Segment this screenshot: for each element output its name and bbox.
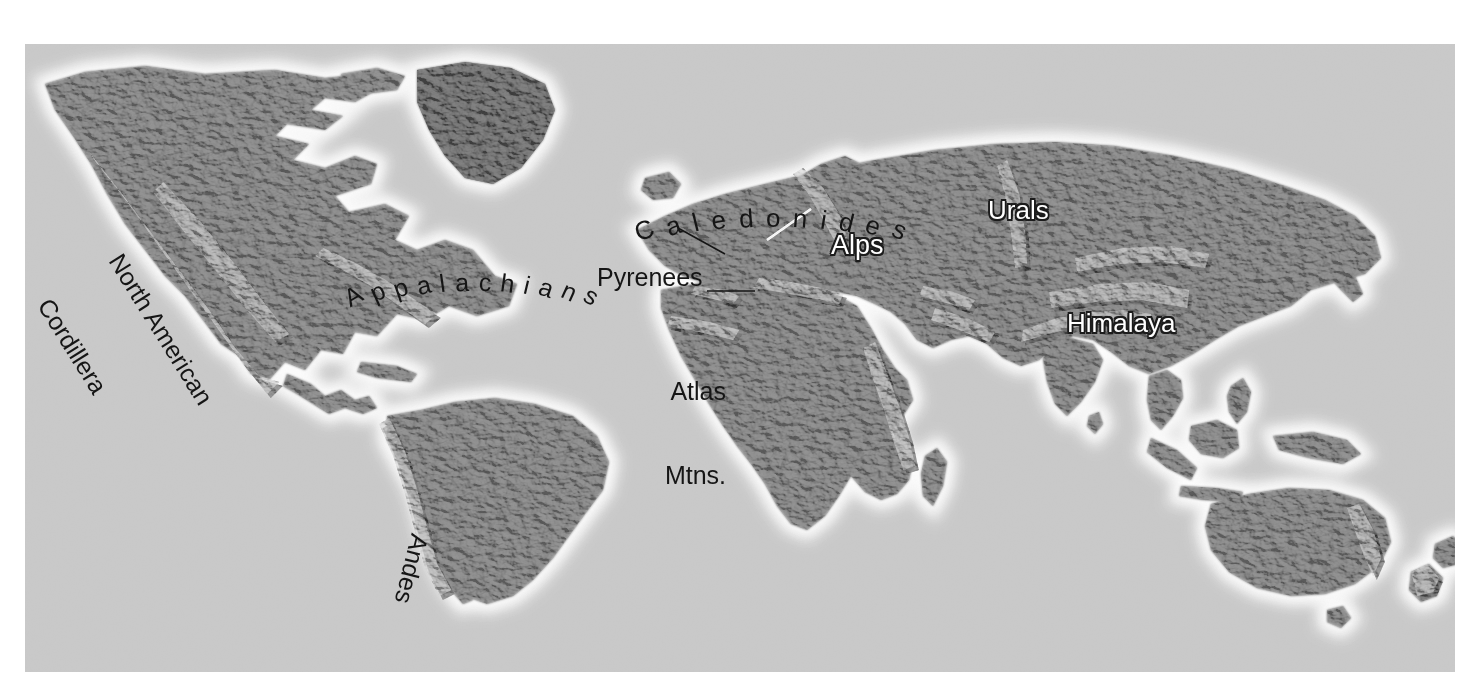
paper-grain-overlay: [25, 44, 1455, 672]
figure-page: North American Cordillera Appalachians A…: [0, 0, 1478, 698]
map-relief-svg: [25, 44, 1455, 672]
world-map: North American Cordillera Appalachians A…: [25, 44, 1455, 672]
